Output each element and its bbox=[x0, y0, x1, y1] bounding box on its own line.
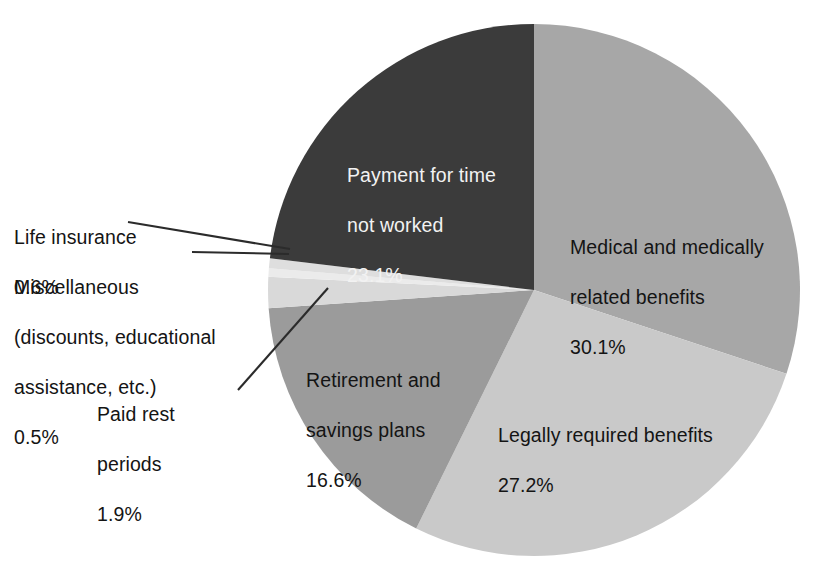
slice-label-medical-and-medically-related-benefits: Medical and medically related benefits 3… bbox=[570, 210, 764, 385]
slice-label-payment-for-time-not-worked: Payment for time not worked 23.1% bbox=[347, 138, 496, 313]
slice-label-line: Miscellaneous bbox=[14, 276, 139, 298]
slice-label-line: Payment for time bbox=[347, 164, 496, 186]
slice-label-retirement-and-savings-plans: Retirement and savings plans 16.6% bbox=[306, 343, 441, 518]
slice-label-line: savings plans bbox=[306, 419, 425, 441]
slice-label-line: Legally required benefits bbox=[498, 424, 713, 446]
slice-value: 23.1% bbox=[347, 263, 496, 288]
slice-value: 30.1% bbox=[570, 335, 764, 360]
slice-label-paid-rest-periods: Paid rest periods 1.9% bbox=[97, 377, 175, 552]
slice-label-legally-required-benefits: Legally required benefits 27.2% bbox=[498, 398, 713, 523]
slice-value: 16.6% bbox=[306, 468, 441, 493]
slice-label-line: periods bbox=[97, 453, 162, 475]
slice-value: 27.2% bbox=[498, 473, 713, 498]
slice-label-line: not worked bbox=[347, 214, 443, 236]
slice-label-line: Retirement and bbox=[306, 369, 441, 391]
slice-label-line: Life insurance bbox=[14, 226, 137, 248]
pie-chart: Payment for time not worked 23.1% Medica… bbox=[0, 0, 826, 565]
slice-label-line: (discounts, educational bbox=[14, 326, 216, 348]
slice-label-line: Medical and medically bbox=[570, 236, 764, 258]
leader-line-life-insurance bbox=[128, 222, 290, 249]
slice-value: 1.9% bbox=[97, 502, 175, 527]
slice-label-line: Paid rest bbox=[97, 403, 175, 425]
slice-label-line: related benefits bbox=[570, 286, 705, 308]
